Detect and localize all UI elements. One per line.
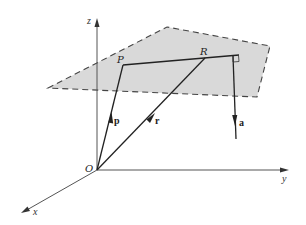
z-axis-label: z (86, 15, 91, 26)
y-axis-label: y (281, 173, 287, 184)
diagram-canvas: z y x O P R p r a (0, 0, 306, 225)
vector-a-arrowhead (232, 115, 237, 126)
point-R-label: R (199, 46, 208, 57)
y-axis-arrowhead (280, 168, 289, 173)
vector-r-label: r (155, 115, 160, 126)
x-axis-label: x (32, 206, 38, 217)
point-P-label: P (116, 54, 124, 65)
x-axis (25, 170, 97, 211)
x-axis-arrowhead (21, 207, 30, 214)
vector-p-label: p (114, 115, 120, 126)
z-axis-arrowhead (95, 18, 100, 27)
vector-a-label: a (239, 117, 244, 128)
origin-label: O (85, 163, 93, 174)
